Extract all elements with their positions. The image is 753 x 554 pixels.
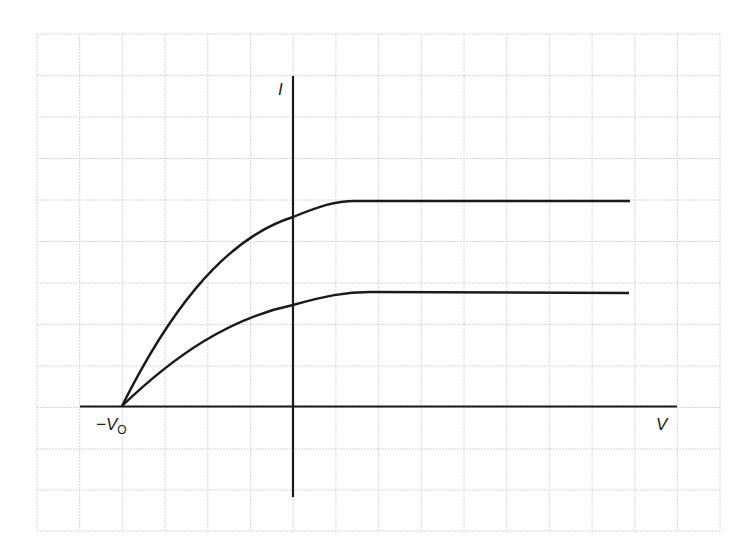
grid (37, 34, 720, 531)
v0-subscript: O (117, 423, 126, 437)
v0-label: −VO (96, 415, 127, 437)
v0-prefix: −V (96, 415, 117, 434)
upper-curve (122, 201, 630, 406)
x-axis-label: V (656, 415, 667, 435)
lower-curve (122, 292, 629, 406)
diagram-canvas (0, 0, 753, 554)
y-axis-label: I (278, 80, 283, 100)
